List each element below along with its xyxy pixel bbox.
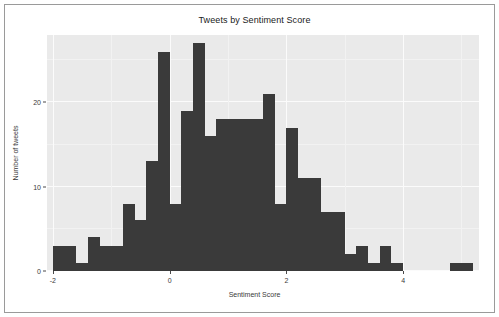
histogram-bar bbox=[251, 119, 263, 271]
x-tick-label: 4 bbox=[401, 277, 405, 284]
histogram-bar bbox=[123, 204, 135, 271]
histogram-bar bbox=[181, 111, 193, 271]
histogram-bar bbox=[240, 119, 252, 271]
x-tick-mark bbox=[286, 271, 287, 274]
histogram-bar bbox=[298, 178, 310, 271]
histogram-bar bbox=[111, 246, 123, 271]
y-tick-mark bbox=[43, 102, 46, 103]
histogram-bar bbox=[333, 212, 345, 271]
x-tick-label: 2 bbox=[284, 277, 288, 284]
x-tick-mark bbox=[170, 271, 171, 274]
chart-frame: Tweets by Sentiment Score 01020 -2024 Nu… bbox=[4, 4, 495, 313]
histogram-bar bbox=[450, 263, 462, 271]
x-tick-mark bbox=[53, 271, 54, 274]
histogram-bar bbox=[380, 246, 392, 271]
histogram-bar bbox=[65, 246, 77, 271]
chart-title: Tweets by Sentiment Score bbox=[5, 15, 499, 25]
histogram-bar bbox=[391, 263, 403, 271]
histogram-bar bbox=[356, 246, 368, 271]
y-tick-label: 0 bbox=[19, 268, 41, 275]
histogram-bar bbox=[170, 204, 182, 271]
histogram-bar bbox=[53, 246, 65, 271]
x-axis-label: Sentiment Score bbox=[5, 291, 499, 298]
histogram-bar bbox=[345, 254, 357, 271]
histogram-bar bbox=[100, 246, 112, 271]
y-tick-label: 20 bbox=[19, 99, 41, 106]
y-axis-label: Number of tweets bbox=[12, 126, 19, 181]
histogram-bar bbox=[263, 94, 275, 271]
chart-screenshot: Tweets by Sentiment Score 01020 -2024 Nu… bbox=[0, 0, 499, 317]
histogram-bar bbox=[205, 136, 217, 271]
histogram-bar bbox=[146, 161, 158, 271]
histogram-bar bbox=[76, 263, 88, 271]
histogram-bar bbox=[310, 178, 322, 271]
y-tick-mark bbox=[43, 186, 46, 187]
histogram-bar bbox=[228, 119, 240, 271]
histogram-bar bbox=[158, 52, 170, 271]
x-tick-mark bbox=[403, 271, 404, 274]
histogram-bar bbox=[461, 263, 473, 271]
histogram-bar bbox=[216, 119, 228, 271]
histogram-bar bbox=[368, 263, 380, 271]
histogram-bar bbox=[135, 220, 147, 271]
x-tick-label: -2 bbox=[50, 277, 56, 284]
histogram-bar bbox=[321, 212, 333, 271]
y-tick-mark bbox=[43, 271, 46, 272]
y-tick-label: 10 bbox=[19, 183, 41, 190]
histogram-bar bbox=[275, 204, 287, 271]
x-tick-label: 0 bbox=[168, 277, 172, 284]
plot-area bbox=[47, 35, 479, 271]
histogram-bar bbox=[286, 128, 298, 271]
histogram-bar bbox=[193, 43, 205, 271]
histogram-bars bbox=[47, 35, 479, 271]
histogram-bar bbox=[88, 237, 100, 271]
